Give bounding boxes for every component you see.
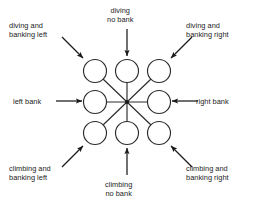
node-climbing-banking-right (148, 122, 171, 145)
label-line-1: right bank (196, 97, 229, 106)
node-diving-no-bank (116, 60, 139, 83)
label-diving-banking-right: diving and banking right (186, 21, 229, 39)
label-line-2: banking left (9, 30, 47, 39)
label-line-1: diving and (9, 21, 47, 30)
arrow-diving-banking-left (62, 37, 83, 58)
label-right-bank: right bank (196, 97, 229, 106)
node-climbing-no-bank (116, 122, 139, 145)
label-left-bank: left bank (13, 97, 41, 106)
arrow-diving-banking-right (171, 37, 192, 58)
label-line-2: banking right (186, 173, 229, 182)
node-diving-banking-left (84, 60, 107, 83)
label-line-1: left bank (13, 97, 41, 106)
figure-canvas: diving and banking left diving no bank d… (0, 0, 255, 206)
label-line-1: climbing and (9, 164, 51, 173)
label-line-2: no bank (107, 15, 133, 24)
node-climbing-banking-left (84, 122, 107, 145)
label-line-2: banking right (186, 30, 229, 39)
label-diving-banking-left: diving and banking left (9, 21, 47, 39)
label-line-2: no bank (105, 189, 132, 198)
label-line-1: diving and (186, 21, 229, 30)
arrow-climbing-banking-left (62, 146, 83, 167)
node-diving-banking-right (148, 60, 171, 83)
label-diving-no-bank: diving no bank (107, 6, 133, 24)
hub-center-dot (125, 100, 129, 104)
label-line-2: banking left (9, 173, 51, 182)
label-line-1: climbing (105, 180, 132, 189)
node-right-bank (148, 91, 171, 114)
label-climbing-banking-right: climbing and banking right (186, 164, 229, 182)
label-climbing-banking-left: climbing and banking left (9, 164, 51, 182)
label-line-1: climbing and (186, 164, 229, 173)
label-climbing-no-bank: climbing no bank (105, 180, 132, 198)
label-line-1: diving (107, 6, 133, 15)
node-left-bank (84, 91, 107, 114)
